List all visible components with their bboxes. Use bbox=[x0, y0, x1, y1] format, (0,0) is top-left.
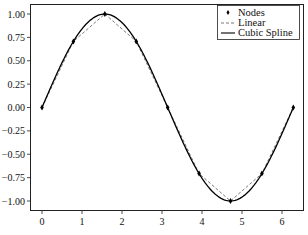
x-tick-label: 1 bbox=[80, 216, 85, 227]
y-tick-label: 0.25 bbox=[8, 79, 26, 90]
chart: 1.000.750.500.250.00−0.25−0.50−0.75−1.00… bbox=[0, 0, 308, 235]
x-tick-label: 6 bbox=[280, 216, 285, 227]
legend-label-cubic-spline: Cubic Spline bbox=[238, 27, 293, 38]
y-tick-label: 0.00 bbox=[8, 102, 26, 113]
y-tick-label: −1.00 bbox=[2, 196, 25, 207]
x-axis-ticks: 0123456 bbox=[40, 211, 285, 228]
x-tick-label: 3 bbox=[160, 216, 165, 227]
y-tick-label: −0.75 bbox=[2, 172, 25, 183]
x-tick-label: 5 bbox=[240, 216, 245, 227]
x-tick-label: 0 bbox=[40, 216, 45, 227]
legend: Nodes Linear Cubic Spline bbox=[218, 6, 300, 40]
x-tick-label: 4 bbox=[200, 216, 205, 227]
y-tick-label: −0.25 bbox=[2, 125, 25, 136]
y-tick-label: −0.50 bbox=[2, 149, 25, 160]
y-tick-label: 1.00 bbox=[8, 9, 26, 20]
y-tick-label: 0.75 bbox=[8, 32, 26, 43]
y-tick-label: 0.50 bbox=[8, 55, 26, 66]
x-tick-label: 2 bbox=[120, 216, 125, 227]
y-axis-ticks: 1.000.750.500.250.00−0.25−0.50−0.75−1.00 bbox=[2, 9, 31, 207]
